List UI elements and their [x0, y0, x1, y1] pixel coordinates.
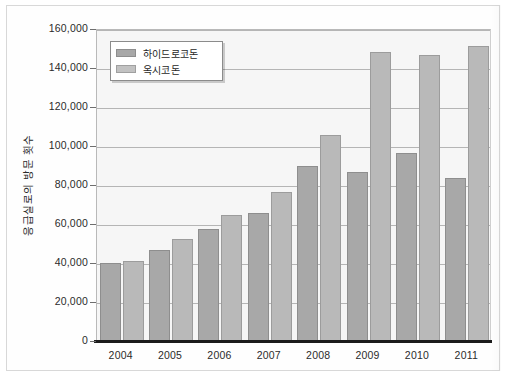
bar-2010-series-0 [396, 153, 417, 341]
bar-2011-series-0 [445, 178, 466, 341]
x-axis-tick-label: 2011 [441, 349, 491, 361]
y-axis-tick-label: 100,000 [26, 140, 88, 150]
y-axis-tick [90, 185, 96, 186]
x-axis-labels: 20042005200620072008200920102011 [96, 349, 491, 367]
x-axis-tick-label: 2010 [392, 349, 442, 361]
y-axis-tick [90, 107, 96, 108]
y-axis-tick-label: 0 [26, 335, 88, 345]
x-axis-line [94, 340, 492, 343]
x-axis-tick-label: 2009 [343, 349, 393, 361]
y-axis-tick-label: 40,000 [26, 257, 88, 267]
chart-legend: 하이드로코돈 옥시코돈 [110, 41, 223, 81]
bar-2006-series-1 [221, 215, 242, 341]
bar-2011-series-1 [468, 46, 489, 341]
legend-item-oxycodone: 옥시코돈 [116, 61, 217, 77]
y-axis-tick [90, 341, 96, 342]
legend-swatch-icon [116, 65, 136, 73]
legend-label: 옥시코돈 [143, 62, 180, 77]
bar-2007-series-0 [248, 213, 269, 341]
x-axis-tick-label: 2007 [244, 349, 294, 361]
y-axis-tick-label: 120,000 [26, 101, 88, 111]
bar-2008-series-0 [297, 166, 318, 341]
x-axis-tick-label: 2006 [194, 349, 244, 361]
bar-2006-series-0 [198, 229, 219, 341]
y-axis-tick-label: 20,000 [26, 296, 88, 306]
bar-2004-series-1 [123, 261, 144, 341]
y-axis-title-text: 응급실로의 방문 횟수 [20, 120, 35, 250]
bar-2010-series-1 [419, 55, 440, 341]
chart-screenshot: 020,00040,00060,00080,000100,000120,0001… [0, 0, 507, 377]
y-axis-tick-label: 60,000 [26, 218, 88, 228]
x-axis-tick-label: 2008 [293, 349, 343, 361]
legend-swatch-icon [116, 49, 136, 57]
y-axis-tick [90, 302, 96, 303]
bar-2005-series-0 [149, 250, 170, 341]
x-axis-tick-label: 2004 [96, 349, 146, 361]
bar-2009-series-0 [347, 172, 368, 341]
y-axis-tick-label: 160,000 [26, 23, 88, 33]
bar-2004-series-0 [100, 263, 121, 341]
y-axis-tick [90, 263, 96, 264]
bar-2007-series-1 [271, 192, 292, 341]
legend-label: 하이드로코돈 [143, 46, 198, 61]
bar-2009-series-1 [370, 52, 391, 341]
y-axis-tick [90, 224, 96, 225]
y-axis-tick-label: 80,000 [26, 179, 88, 189]
y-axis-title: 응급실로의 방문 횟수 [20, 0, 35, 120]
x-axis-tick-label: 2005 [145, 349, 195, 361]
bar-2005-series-1 [172, 239, 193, 341]
y-axis-tick [90, 146, 96, 147]
legend-item-hydrocodone: 하이드로코돈 [116, 45, 217, 61]
y-axis-tick-label: 140,000 [26, 62, 88, 72]
y-axis-tick [90, 68, 96, 69]
y-axis-tick [90, 29, 96, 30]
bar-2008-series-1 [320, 135, 341, 341]
bar-chart-figure: 020,00040,00060,00080,000100,000120,0001… [0, 0, 507, 377]
